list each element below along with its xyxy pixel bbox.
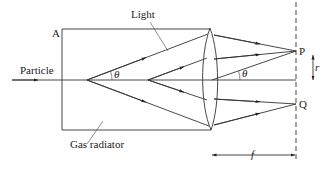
cherenkov-ring-diagram: A Light Particle Gas radiator P Q θ θ r … <box>0 0 326 169</box>
label-theta-right: θ <box>242 67 248 79</box>
label-a: A <box>52 27 60 39</box>
label-particle: Particle <box>20 64 54 76</box>
gas-radiator-box <box>62 29 211 130</box>
label-r: r <box>315 61 320 73</box>
theta-arc-left <box>111 71 113 80</box>
light-rays-inner <box>148 58 207 100</box>
label-q: Q <box>299 98 307 110</box>
label-light: Light <box>131 8 155 20</box>
label-gas-radiator: Gas radiator <box>70 138 124 150</box>
label-f: f <box>251 148 256 160</box>
label-p: P <box>299 45 305 57</box>
light-leader <box>150 22 168 51</box>
label-theta-left: θ <box>114 68 120 80</box>
theta-arc-right <box>239 71 241 80</box>
